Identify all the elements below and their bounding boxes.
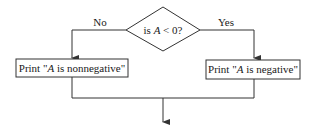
yes-branch-line bbox=[200, 30, 254, 58]
no-branch-line bbox=[72, 30, 126, 58]
no-action-text: Print "A is nonnegative" bbox=[19, 62, 125, 74]
no-label: No bbox=[93, 16, 107, 28]
yes-action-text: Print "A is negative" bbox=[208, 63, 298, 75]
flowchart: is A < 0? No Yes Print "A is nonnegative… bbox=[0, 0, 315, 133]
yes-label: Yes bbox=[218, 16, 234, 28]
merge-line bbox=[72, 77, 254, 98]
decision-text: is A < 0? bbox=[144, 24, 183, 36]
